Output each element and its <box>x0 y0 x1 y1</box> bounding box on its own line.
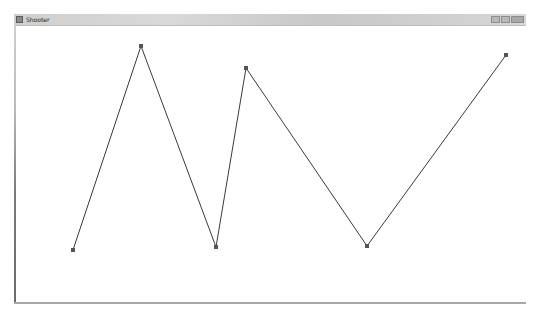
drawing-canvas[interactable] <box>0 0 540 317</box>
vertex-marker-1[interactable] <box>139 44 143 48</box>
vertex-marker-5[interactable] <box>504 53 508 57</box>
path-line <box>73 46 506 250</box>
vertex-marker-2[interactable] <box>214 245 218 249</box>
vertex-marker-3[interactable] <box>244 66 248 70</box>
vertex-marker-0[interactable] <box>71 248 75 252</box>
vertex-marker-4[interactable] <box>365 244 369 248</box>
